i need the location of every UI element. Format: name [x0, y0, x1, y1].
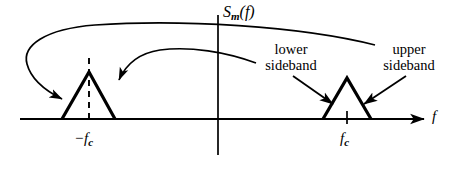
spectrum-figure: Sm(f) lower sideband upper sideband −fc … — [0, 0, 451, 175]
y-axis-label: Sm(f) — [223, 3, 255, 22]
lower-sideband-label: lower sideband — [251, 41, 331, 73]
lower-sideband-label-line1: lower — [251, 41, 331, 57]
y-axis-label-arg: (f) — [240, 3, 255, 20]
x-tick-label-negative-fc-subscript: c — [88, 136, 93, 148]
y-axis-label-subscript: m — [231, 10, 240, 22]
x-axis-label: f — [432, 108, 436, 125]
x-tick-label-positive-fc-subscript: c — [344, 136, 349, 148]
upper-sideband-label-line1: upper — [369, 41, 449, 57]
spectrum-plot-svg — [0, 0, 451, 175]
x-tick-label-negative-fc: −fc — [74, 130, 93, 149]
upper-sideband-label: upper sideband — [369, 41, 449, 73]
arrow-lower-sideband-label-to-positive-left-flank — [293, 76, 333, 104]
arrow-lower-sideband-to-negative-right-flank — [119, 49, 256, 80]
upper-sideband-label-line2: sideband — [369, 57, 449, 73]
x-tick-label-negative-fc-main: −f — [74, 130, 88, 146]
arrow-upper-sideband-label-to-positive-right-flank — [364, 76, 406, 104]
x-tick-label-positive-fc: fc — [340, 130, 349, 149]
lower-sideband-label-line2: sideband — [251, 57, 331, 73]
y-axis-label-main: S — [223, 3, 231, 20]
